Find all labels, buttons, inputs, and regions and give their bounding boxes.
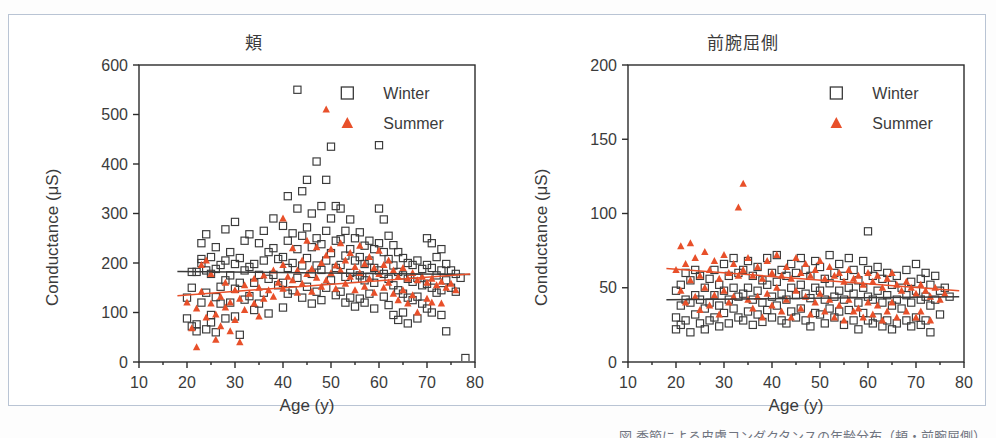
- data-point: [845, 296, 852, 303]
- data-point: [855, 326, 862, 333]
- data-point: [327, 143, 334, 150]
- data-point: [390, 290, 397, 297]
- data-point: [826, 263, 833, 270]
- data-point: [788, 284, 795, 291]
- series-summer: [183, 106, 459, 351]
- data-point: [438, 311, 445, 318]
- legend-marker-winter: [341, 87, 353, 99]
- data-point: [696, 306, 703, 313]
- figure-root: 頬 Conductance (μS) Age (y) 0100200300400…: [0, 0, 996, 438]
- data-point: [778, 308, 785, 315]
- x-tick-label: 40: [763, 374, 781, 391]
- data-point: [438, 300, 445, 307]
- data-point: [696, 272, 703, 279]
- data-point: [768, 269, 775, 276]
- data-point: [227, 249, 234, 256]
- data-point: [414, 315, 421, 322]
- data-point: [275, 255, 282, 262]
- data-point: [294, 274, 301, 281]
- data-point: [203, 313, 210, 320]
- data-point: [845, 254, 852, 261]
- x-tick-label: 10: [619, 374, 637, 391]
- plot-frame: [628, 65, 964, 362]
- data-point: [433, 272, 440, 279]
- data-point: [677, 321, 684, 328]
- data-point: [414, 257, 421, 264]
- x-tick-label: 40: [274, 374, 292, 391]
- data-point: [279, 304, 286, 311]
- data-point: [730, 284, 737, 291]
- data-point: [404, 259, 411, 266]
- data-point: [764, 257, 771, 264]
- legend-label-summer: Summer: [872, 115, 933, 132]
- data-point: [759, 313, 766, 320]
- data-point: [409, 291, 416, 298]
- data-point: [279, 253, 286, 260]
- data-point: [385, 257, 392, 264]
- data-point: [203, 231, 210, 238]
- data-point: [903, 308, 910, 315]
- legend-marker-summer: [342, 117, 354, 128]
- data-point: [404, 300, 411, 307]
- data-point: [284, 193, 291, 200]
- data-point: [308, 300, 315, 307]
- data-point: [270, 293, 277, 300]
- data-point: [711, 291, 718, 298]
- data-point: [294, 86, 301, 93]
- x-tick-label: 50: [322, 374, 340, 391]
- data-point: [725, 320, 732, 327]
- data-point: [241, 306, 248, 313]
- data-point: [452, 286, 459, 293]
- y-tick-label: 300: [101, 205, 128, 222]
- data-point: [720, 287, 727, 294]
- y-tick-label: 50: [599, 279, 617, 296]
- data-point: [850, 317, 857, 324]
- data-point: [908, 299, 915, 306]
- data-point: [428, 240, 435, 247]
- data-point: [308, 210, 315, 217]
- data-point: [251, 260, 258, 267]
- data-point: [212, 336, 219, 343]
- data-point: [730, 305, 737, 312]
- data-point: [231, 218, 238, 225]
- data-point: [893, 313, 900, 320]
- data-point: [447, 280, 454, 287]
- data-point: [716, 323, 723, 330]
- data-point: [927, 281, 934, 288]
- data-point: [677, 242, 684, 249]
- data-point: [303, 237, 310, 244]
- data-point: [792, 254, 799, 261]
- data-point: [212, 244, 219, 251]
- data-point: [198, 299, 205, 306]
- data-point: [390, 311, 397, 318]
- data-point: [423, 295, 430, 302]
- data-point: [730, 260, 737, 267]
- data-point: [332, 261, 339, 268]
- data-point: [193, 343, 200, 350]
- data-point: [299, 232, 306, 239]
- data-point: [438, 246, 445, 253]
- data-point: [797, 269, 804, 276]
- scatter-plot-forearm: 0501001502001020304050607080WinterSummer: [498, 15, 987, 407]
- data-point: [826, 305, 833, 312]
- data-point: [716, 275, 723, 282]
- data-point: [313, 158, 320, 165]
- data-point: [768, 302, 775, 309]
- data-point: [884, 308, 891, 315]
- data-point: [222, 226, 229, 233]
- data-point: [371, 264, 378, 271]
- data-point: [864, 299, 871, 306]
- data-point: [773, 284, 780, 291]
- data-point: [371, 305, 378, 312]
- data-point: [227, 327, 234, 334]
- data-point: [816, 257, 823, 264]
- data-point: [284, 237, 291, 244]
- data-point: [308, 265, 315, 272]
- data-point: [265, 310, 272, 317]
- x-tick-label: 60: [859, 374, 877, 391]
- data-point: [207, 253, 214, 260]
- data-point: [797, 281, 804, 288]
- data-point: [778, 317, 785, 324]
- data-point: [706, 275, 713, 282]
- data-point: [754, 263, 761, 270]
